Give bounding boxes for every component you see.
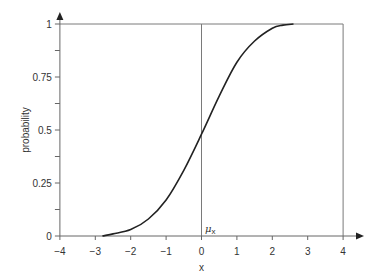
y-axis-arrow-icon — [56, 12, 63, 20]
y-tick-label: 0.75 — [32, 72, 52, 83]
mu-annotation: μx — [205, 223, 216, 236]
x-tick-label: 2 — [270, 246, 276, 257]
x-tick-label: 3 — [305, 246, 311, 257]
x-axis-arrow-icon — [356, 233, 364, 240]
x-tick-label: −1 — [160, 246, 172, 257]
y-axis-label: probability — [20, 107, 31, 153]
x-tick-label: 4 — [340, 246, 346, 257]
x-tick-label: −4 — [54, 246, 66, 257]
cdf-curve — [102, 24, 293, 236]
x-tick-label: −3 — [90, 246, 102, 257]
y-tick-label: 0.25 — [32, 178, 52, 189]
y-tick-label: 0.5 — [38, 125, 52, 136]
x-tick-label: −2 — [125, 246, 137, 257]
x-tick-label: 0 — [199, 246, 205, 257]
axes — [56, 12, 364, 240]
cdf-chart: −4−3−2−101234 00.250.50.751 x probabilit… — [0, 0, 381, 279]
x-tick-label: 1 — [234, 246, 240, 257]
reference-lines — [60, 24, 343, 236]
y-tick-label: 0 — [46, 231, 52, 242]
y-axis-ticks: 00.250.50.751 — [32, 19, 59, 242]
x-axis-ticks: −4−3−2−101234 — [54, 236, 346, 257]
mu-subscript: x — [212, 227, 216, 236]
y-tick-label: 1 — [46, 19, 52, 30]
x-axis-label: x — [199, 262, 204, 273]
